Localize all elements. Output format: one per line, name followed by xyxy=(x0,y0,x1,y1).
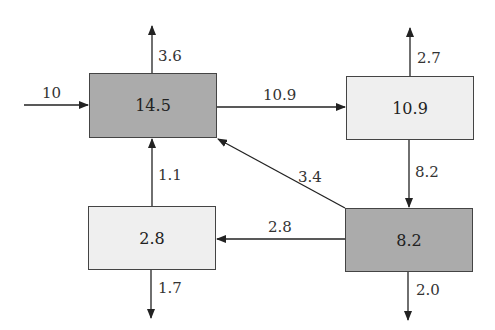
edge-label-d-to-a: 3.4 xyxy=(298,170,322,185)
edge-d-to-a xyxy=(218,139,345,208)
edge-label-d-to-c: 2.8 xyxy=(268,220,292,235)
edge-label-b-outflow: 2.7 xyxy=(417,51,441,66)
edge-label-c-outflow: 1.7 xyxy=(158,281,182,296)
node-b: 10.9 xyxy=(346,76,474,140)
edge-label-d-outflow: 2.0 xyxy=(416,283,440,298)
node-c: 2.8 xyxy=(88,206,216,270)
node-b-value: 10.9 xyxy=(392,99,428,118)
node-a-value: 14.5 xyxy=(135,96,171,115)
node-d-value: 8.2 xyxy=(396,231,421,250)
node-c-value: 2.8 xyxy=(139,229,164,248)
edge-label-inflow: 10 xyxy=(42,86,61,101)
edge-label-a-outflow: 3.6 xyxy=(158,49,182,64)
edge-label-b-to-d: 8.2 xyxy=(415,165,439,180)
edge-label-a-to-b: 10.9 xyxy=(263,88,296,103)
node-d: 8.2 xyxy=(345,208,473,272)
node-a: 14.5 xyxy=(89,73,217,138)
edge-label-c-to-a: 1.1 xyxy=(158,168,182,183)
